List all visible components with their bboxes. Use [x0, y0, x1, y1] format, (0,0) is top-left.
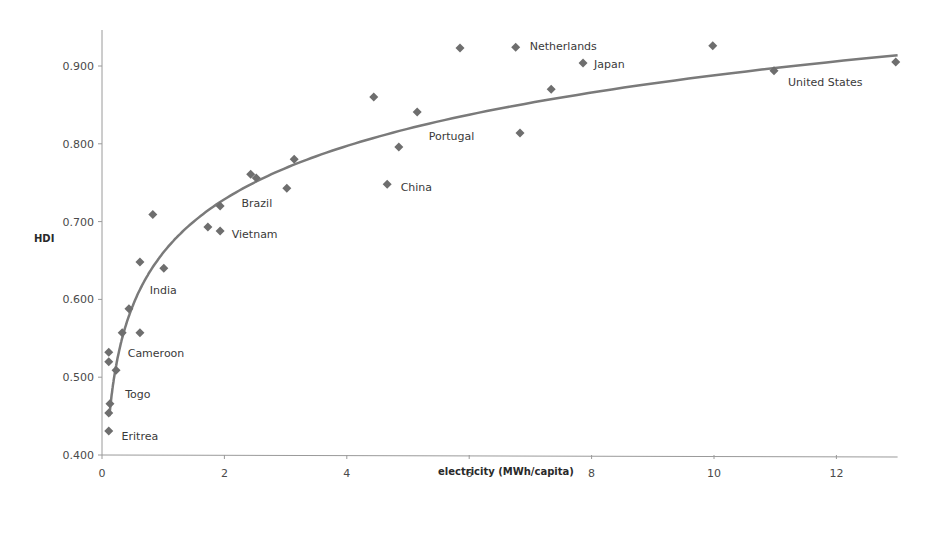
- data-point: [104, 426, 113, 435]
- x-axis-title: electricity (MWh/capita): [438, 466, 574, 477]
- data-point: [282, 184, 291, 193]
- y-axis-title: HDI: [34, 233, 54, 244]
- data-point: [135, 328, 144, 337]
- x-tick-label: 4: [343, 467, 350, 480]
- point-labels: EritreaTogoCameroonIndiaVietnamBrazilChi…: [122, 40, 863, 443]
- point-label: China: [401, 181, 432, 194]
- data-point: [413, 107, 422, 116]
- point-label: Togo: [124, 388, 151, 401]
- data-point: [579, 58, 588, 67]
- point-label: Netherlands: [530, 40, 597, 53]
- data-point: [456, 44, 465, 53]
- y-tick-label: 0.900: [63, 60, 95, 73]
- data-point: [547, 85, 556, 94]
- y-axis: 0.4000.5000.6000.7000.8000.900: [63, 30, 103, 462]
- x-tick-label: 10: [707, 467, 721, 480]
- point-label: Japan: [593, 58, 625, 71]
- data-point: [708, 41, 717, 50]
- x-tick-label: 2: [221, 467, 228, 480]
- point-label: India: [150, 284, 177, 297]
- data-point: [104, 357, 113, 366]
- trendline: [109, 55, 897, 416]
- x-tick-label: 0: [99, 467, 106, 480]
- data-point: [104, 348, 113, 357]
- data-point: [394, 142, 403, 151]
- point-label: Portugal: [429, 130, 475, 143]
- point-label: Vietnam: [232, 228, 278, 241]
- scatter-chart: 0.4000.5000.6000.7000.8000.900 024681012…: [0, 0, 935, 538]
- point-label: United States: [788, 76, 863, 89]
- y-tick-label: 0.400: [63, 449, 95, 462]
- data-point: [216, 226, 225, 235]
- x-tick-label: 8: [588, 467, 595, 480]
- point-label: Eritrea: [122, 430, 159, 443]
- point-label: Cameroon: [128, 347, 185, 360]
- data-point: [112, 366, 121, 375]
- y-tick-label: 0.500: [63, 371, 95, 384]
- point-label: Brazil: [242, 197, 273, 210]
- data-point: [135, 258, 144, 267]
- y-tick-label: 0.600: [63, 293, 95, 306]
- data-point: [148, 210, 157, 219]
- data-point: [369, 93, 378, 102]
- y-tick-label: 0.800: [63, 138, 95, 151]
- data-point: [383, 180, 392, 189]
- x-tick-label: 12: [829, 467, 843, 480]
- data-point: [105, 399, 114, 408]
- data-point: [515, 128, 524, 137]
- data-points: [104, 41, 900, 435]
- y-tick-label: 0.700: [63, 216, 95, 229]
- data-point: [104, 408, 113, 417]
- data-point: [203, 223, 212, 232]
- data-point: [159, 264, 168, 273]
- data-point: [511, 43, 520, 52]
- data-point: [891, 58, 900, 67]
